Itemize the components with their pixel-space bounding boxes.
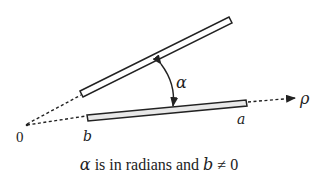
caption-b: b: [203, 155, 213, 174]
caption-text-2: ≠ 0: [213, 156, 238, 173]
caption-alpha: α: [80, 155, 91, 174]
origin-label: 0: [16, 129, 24, 145]
alpha-label: α: [176, 73, 187, 92]
upper-plate: [80, 17, 232, 97]
point-b-label: b: [83, 128, 92, 144]
wedge-plates-diagram: 0 α ρ b a α is in radians and b ≠ 0: [0, 0, 318, 182]
dashed-line-upper: [27, 95, 81, 124]
dashed-line-lower: [27, 116, 86, 125]
origin-point: [26, 124, 29, 127]
caption-text-1: is in radians and: [91, 156, 203, 173]
point-a-label: a: [237, 111, 245, 127]
rho-axis-arrow: [248, 98, 295, 102]
rho-label: ρ: [299, 89, 310, 108]
caption: α is in radians and b ≠ 0: [80, 155, 238, 174]
lower-plate: [87, 100, 247, 121]
alpha-angle-arc: [161, 64, 174, 106]
